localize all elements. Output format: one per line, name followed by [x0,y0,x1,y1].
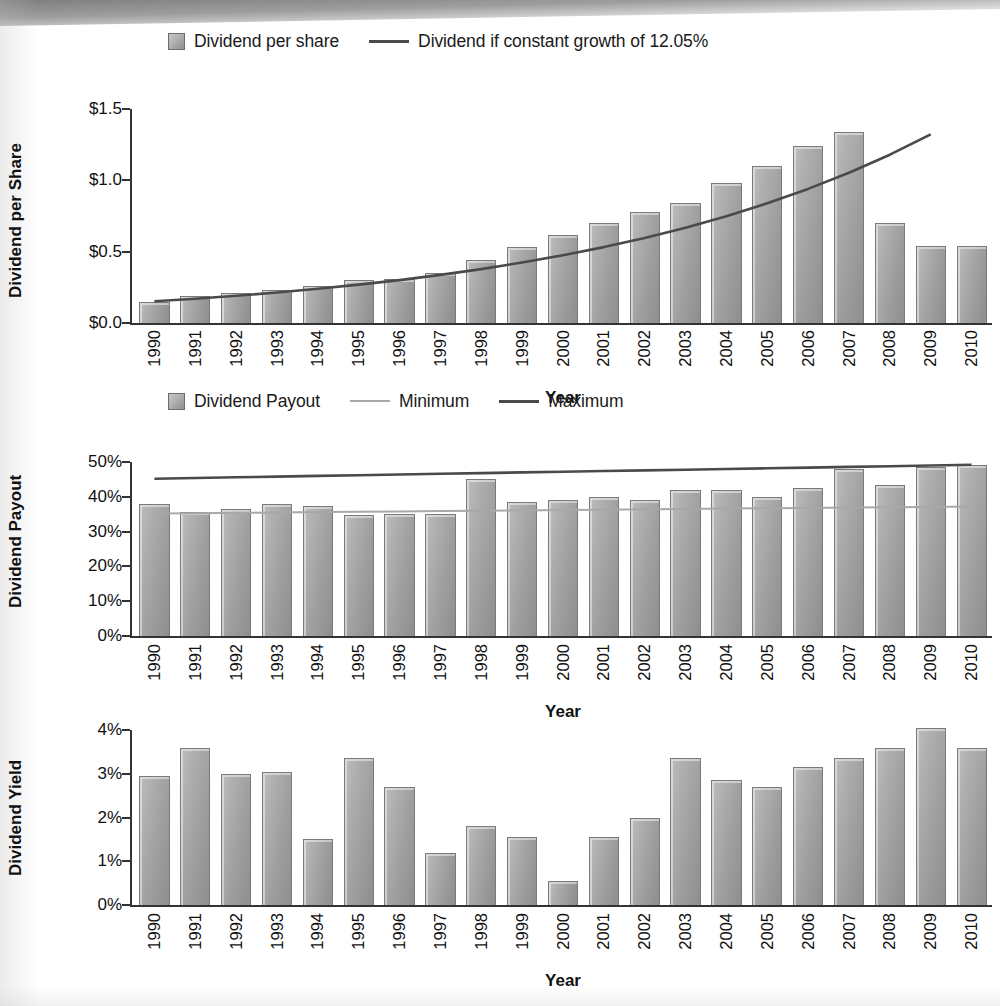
x-axis-tick-labels-chart2: 1990199119921993199419951996199719981999… [134,644,992,681]
x-tick-cell: 1990 [134,644,175,681]
x-tick-cell: 1997 [420,330,461,367]
bar [384,787,414,905]
x-tick-cell: 2001 [583,913,624,950]
bar-cell [747,109,788,323]
y-tick-mark [122,600,130,602]
bar-cell [910,730,951,905]
y-tick-mark [122,496,130,498]
x-axis-tick-label: 1998 [472,330,491,367]
x-tick-cell: 1999 [502,913,543,950]
bar [425,273,455,323]
bar [466,826,496,905]
legend-swatch-icon [168,393,185,410]
x-tick-cell: 1995 [338,644,379,681]
x-tick-cell: 2010 [951,644,992,681]
bar-cell [624,109,665,323]
bar-series [134,109,992,323]
bar-cell [665,109,706,323]
x-axis-tick-label: 2008 [880,330,899,367]
x-axis-tick-label: 2009 [921,330,940,367]
bar [711,490,741,636]
y-axis-tick-label: 2% [97,808,122,828]
bar-cell [338,462,379,636]
x-axis-tick-label: 2005 [758,330,777,367]
bar-cell [175,730,216,905]
bar-cell [297,462,338,636]
bar [548,235,578,323]
x-tick-cell: 1999 [502,330,543,367]
bar-cell [583,462,624,636]
x-axis-tick-label: 1997 [431,330,450,367]
y-axis-tick-label: 50% [88,452,122,472]
x-axis-tick-label: 2002 [635,913,654,950]
bar [916,467,946,636]
y-tick-mark [122,179,130,181]
bar-cell [216,462,257,636]
y-axis-ticks: $0.0$0.5$1.0$1.5 [50,56,122,356]
x-axis-tick-label: 2006 [799,644,818,681]
bar [793,146,823,323]
bar-cell [461,730,502,905]
bar-cell [338,730,379,905]
x-axis-tick-label: 1990 [145,644,164,681]
x-tick-cell: 2002 [624,330,665,367]
x-axis-tick-label: 1998 [472,644,491,681]
x-axis-tick-label: 1993 [268,913,287,950]
bar [630,212,660,323]
y-axis-tick-label: 40% [88,487,122,507]
legend-item-constant-growth: Dividend if constant growth of 12.05% [369,31,708,52]
bar [630,500,660,636]
x-tick-cell: 1995 [338,913,379,950]
bar-cell [420,462,461,636]
bar [957,246,987,323]
bar [507,247,537,323]
bar [834,758,864,905]
bar [139,504,169,636]
bar [752,787,782,905]
y-axis-line [130,109,132,325]
legend-swatch-icon [168,33,185,50]
x-axis-tick-label: 2007 [840,644,859,681]
bar [793,488,823,636]
y-axis-tick-label: 4% [97,720,122,740]
x-tick-cell: 2006 [788,644,829,681]
bar-cell [543,109,584,323]
bar [916,728,946,905]
x-axis-tick-label: 1992 [227,644,246,681]
x-tick-cell: 1992 [216,330,257,367]
x-tick-cell: 2009 [910,913,951,950]
y-axis-tick-label: 3% [97,764,122,784]
bar [834,469,864,636]
x-tick-cell: 1994 [297,913,338,950]
bar [670,490,700,636]
x-tick-cell: 2001 [583,644,624,681]
bar-cell [788,730,829,905]
x-axis-tick-label: 1995 [349,644,368,681]
x-tick-cell: 1990 [134,330,175,367]
x-axis-tick-label: 2007 [840,913,859,950]
x-tick-cell: 2003 [665,644,706,681]
x-tick-cell: 2005 [747,330,788,367]
x-tick-cell: 1992 [216,913,257,950]
x-axis-tick-label: 2001 [594,913,613,950]
x-tick-cell: 2007 [829,330,870,367]
y-axis-tick-label: 1% [97,851,122,871]
bar-series [134,462,992,636]
x-axis-tick-labels-chart3: 1990199119921993199419951996199719981999… [134,913,992,950]
x-axis-tick-label: 1996 [390,330,409,367]
bar-cell [951,462,992,636]
x-tick-cell: 1992 [216,644,257,681]
y-tick-mark [122,904,130,906]
x-axis-tick-label: 2000 [554,913,573,950]
legend-line-icon [350,400,390,402]
bar [507,502,537,636]
y-tick-mark [122,565,130,567]
bar-cell [869,730,910,905]
y-tick-mark [122,729,130,731]
bar-cell [624,730,665,905]
x-axis-tick-label: 2004 [717,913,736,950]
y-axis-line [130,462,132,638]
y-axis-title: Dividend per Share [6,126,26,316]
bar [548,500,578,636]
legend-label: Minimum [399,391,469,412]
